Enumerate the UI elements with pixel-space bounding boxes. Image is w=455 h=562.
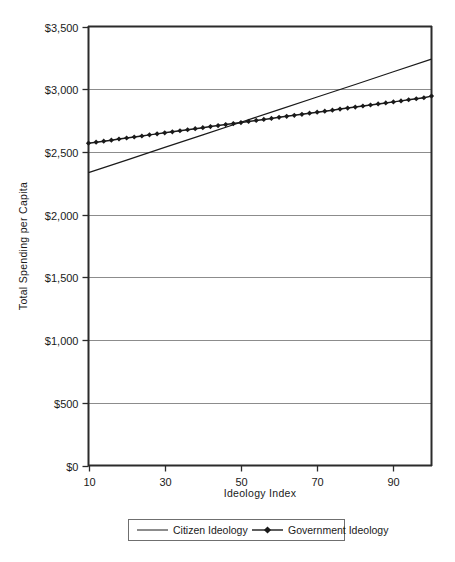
legend-label-government-ideology: Government Ideology xyxy=(288,524,389,536)
y-tick-label: $1,000 xyxy=(45,335,79,347)
y-axis-title: Total Spending per Capita xyxy=(17,182,29,310)
y-tick-label: $2,000 xyxy=(45,210,79,222)
chart-figure: $0$500$1,000$1,500$2,000$2,500$3,000$3,5… xyxy=(0,0,455,562)
x-tick-label: 50 xyxy=(235,476,247,488)
x-tick-label: 90 xyxy=(387,476,399,488)
legend-label-citizen-ideology: Citizen Ideology xyxy=(173,524,248,536)
x-tick-label: 70 xyxy=(311,476,323,488)
x-axis-title: Ideology Index xyxy=(224,487,297,499)
x-tick-label: 10 xyxy=(83,476,95,488)
y-tick-label: $2,500 xyxy=(45,147,79,159)
y-tick-label: $1,500 xyxy=(45,272,79,284)
y-tick-label: $3,500 xyxy=(45,22,79,34)
x-tick-label: 30 xyxy=(159,476,171,488)
y-tick-label: $500 xyxy=(54,398,78,410)
line-chart-svg: $0$500$1,000$1,500$2,000$2,500$3,000$3,5… xyxy=(0,0,455,562)
y-tick-label: $0 xyxy=(66,461,78,473)
y-tick-label: $3,000 xyxy=(45,84,79,96)
